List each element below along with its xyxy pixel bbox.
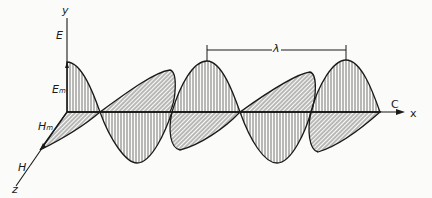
z-axis-label: z (12, 184, 18, 195)
em-amplitude-label: Em (52, 84, 66, 95)
em-wave-diagram: y E Em Hm H z λ C x (0, 0, 432, 198)
wavelength-label: λ (272, 43, 281, 54)
e-field-label: E (56, 30, 63, 41)
y-axis-label: y (62, 5, 69, 16)
wave-figure (0, 0, 432, 198)
hm-amplitude-label: Hm (38, 121, 53, 132)
x-axis-label: x (410, 108, 417, 119)
velocity-label: C (391, 99, 399, 110)
h-field-label: H (18, 162, 26, 173)
